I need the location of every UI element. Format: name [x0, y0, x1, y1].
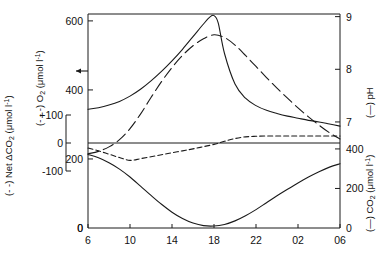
tick-label: 9	[346, 11, 352, 23]
tick-label: 7	[346, 116, 352, 128]
tick-label: -100	[42, 165, 63, 177]
net-co2-axis-title: (- -) Net ΔCO2 (μmol l-1)	[3, 95, 15, 196]
data-curves	[88, 15, 340, 226]
tick-label: 06	[334, 234, 346, 246]
tick-label: 0	[77, 222, 83, 234]
svg-text:(- - -) O2 (μmol l-1): (- - -) O2 (μmol l-1)	[34, 50, 46, 126]
figure-panel: 610141822020660040020000+1000-1009874002…	[0, 0, 380, 259]
tick-label: 22	[250, 234, 262, 246]
tick-label: 200	[65, 153, 83, 165]
tick-label: 400	[65, 84, 83, 96]
tick-label: 600	[65, 15, 83, 27]
tick-label: 6	[85, 234, 91, 246]
svg-text:(—) CO2 (μmol l-1): (—) CO2 (μmol l-1)	[364, 155, 376, 232]
axis-ticks	[88, 17, 340, 228]
tick-label: 18	[208, 234, 220, 246]
tick-label: 14	[166, 234, 178, 246]
tick-label: 0	[346, 222, 352, 234]
tick-label: 400	[346, 143, 364, 155]
ph-axis-title: (—) pH	[364, 87, 375, 118]
o2-arrow-marker-icon	[76, 68, 88, 73]
plot-frame	[88, 14, 340, 228]
curve-ph	[88, 15, 340, 126]
curve-net-co2	[88, 136, 340, 160]
svg-text:(—) pH: (—) pH	[364, 87, 375, 118]
diel-timeseries-chart: 610141822020660040020000+1000-1009874002…	[0, 0, 380, 259]
tick-label: 02	[292, 234, 304, 246]
tick-label: 200	[346, 182, 364, 194]
tick-label: 10	[124, 234, 136, 246]
co2-axis-title: (—) CO2 (μmol l-1)	[364, 155, 376, 232]
svg-text:(- -) Net ΔCO2 (μmol l-1): (- -) Net ΔCO2 (μmol l-1)	[3, 95, 15, 196]
tick-label: 8	[346, 63, 352, 75]
curve-co2	[88, 154, 340, 226]
tick-label: 0	[57, 137, 63, 149]
o2-axis-title: (- - -) O2 (μmol l-1)	[34, 50, 46, 126]
